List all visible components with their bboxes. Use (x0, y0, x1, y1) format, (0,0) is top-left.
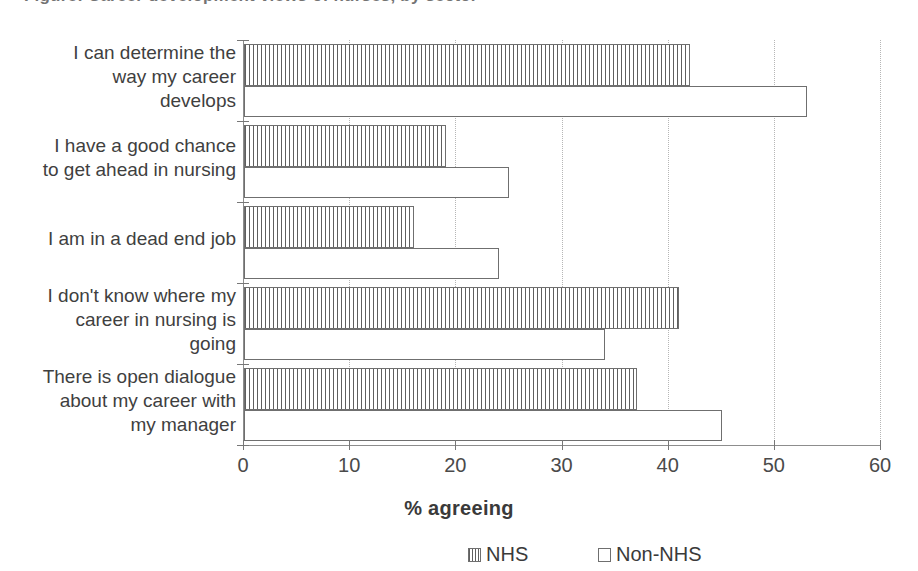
x-axis-tick-label: 20 (444, 454, 466, 477)
bar-nhs (244, 206, 414, 248)
category-label: I am in a dead end job (0, 227, 236, 251)
bar-non-nhs (244, 86, 807, 117)
x-axis-tick (349, 440, 350, 450)
plot-area: 0102030405060 (243, 40, 880, 445)
x-axis-tick (880, 440, 881, 450)
bar-non-nhs (244, 410, 722, 441)
category-label-line: going (0, 332, 236, 356)
x-axis-tick-label: 0 (237, 454, 248, 477)
x-axis-tick-label: 30 (550, 454, 572, 477)
legend-label: NHS (486, 543, 528, 566)
x-axis-tick-label: 40 (657, 454, 679, 477)
category-label: There is open dialogueabout my career wi… (0, 365, 236, 437)
white-swatch (598, 548, 611, 562)
legend-item-nhs: NHS (468, 543, 528, 566)
x-axis-tick (243, 440, 244, 450)
page-title-text: Figure: Career development views of nurs… (24, 0, 478, 6)
bar-nhs (244, 44, 690, 86)
category-label: I have a good chanceto get ahead in nurs… (0, 134, 236, 182)
category-label-line: I am in a dead end job (0, 227, 236, 251)
category-label-line: to get ahead in nursing (0, 158, 236, 182)
chart-legend: NHSNon-NHS (0, 543, 918, 571)
category-label-line: career in nursing is (0, 308, 236, 332)
legend-item-non-nhs: Non-NHS (598, 543, 702, 566)
x-axis-tick (455, 440, 456, 450)
page-title-cropped: Figure: Career development views of nurs… (0, 0, 918, 16)
y-axis-tick (237, 202, 249, 203)
bar-non-nhs (244, 329, 605, 360)
category-label-line: I don't know where my (0, 284, 236, 308)
bar-non-nhs (244, 248, 499, 279)
y-axis-tick (237, 121, 249, 122)
category-label-line: way my career (0, 65, 236, 89)
x-axis-tick (562, 440, 563, 450)
category-axis-labels: I can determine theway my careerdevelops… (0, 40, 236, 445)
legend-label: Non-NHS (616, 543, 702, 566)
category-label-line: develops (0, 89, 236, 113)
bar-non-nhs (244, 167, 509, 198)
category-label-line: I can determine the (0, 41, 236, 65)
bar-nhs (244, 287, 679, 329)
y-axis-tick (237, 364, 249, 365)
category-label: I can determine theway my careerdevelops (0, 41, 236, 113)
x-axis-tick (774, 440, 775, 450)
category-label-line: about my career with (0, 389, 236, 413)
x-axis-title: % agreeing (0, 497, 918, 520)
gridline (880, 40, 881, 445)
bar-nhs (244, 368, 637, 410)
category-label: I don't know where mycareer in nursing i… (0, 284, 236, 356)
chart-page: Figure: Career development views of nurs… (0, 0, 918, 571)
hatch-swatch (468, 548, 481, 562)
category-label-line: There is open dialogue (0, 365, 236, 389)
x-axis-tick (668, 440, 669, 450)
x-axis-tick-label: 50 (763, 454, 785, 477)
y-axis-tick (237, 283, 249, 284)
category-label-line: I have a good chance (0, 134, 236, 158)
category-label-line: my manager (0, 413, 236, 437)
bar-nhs (244, 125, 446, 167)
x-axis-tick-label: 10 (338, 454, 360, 477)
x-axis-tick-label: 60 (869, 454, 891, 477)
y-axis-tick (237, 40, 249, 41)
